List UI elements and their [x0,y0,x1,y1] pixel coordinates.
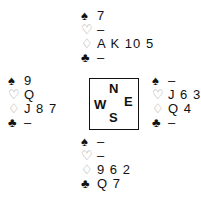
east-diamonds-cards: Q 4 [168,102,192,116]
diamond-icon: ♢ [8,102,24,116]
south-diamonds-cards: 9 6 2 [97,163,131,177]
east-spades-cards: – [168,74,176,88]
heart-icon: ♡ [81,149,97,163]
west-clubs-cards: – [24,116,32,130]
north-spades-cards: 7 [97,9,105,23]
south-hearts-row: ♡ – [81,149,131,163]
north-hearts-cards: – [97,23,105,37]
west-hand: ♠ 9 ♡ Q ♢ J 8 7 ♣ – [8,74,57,130]
club-icon: ♣ [81,177,97,191]
west-clubs-row: ♣ – [8,116,57,130]
north-clubs-cards: – [97,51,105,65]
north-hand: ♠ 7 ♡ – ♢ A K 10 5 ♣ – [81,9,154,65]
club-icon: ♣ [8,116,24,130]
compass-north-label: N [109,82,118,95]
heart-icon: ♡ [152,88,168,102]
north-clubs-row: ♣ – [81,51,154,65]
club-icon: ♣ [81,51,97,65]
south-hearts-cards: – [97,149,105,163]
west-hearts-row: ♡ Q [8,88,57,102]
diamond-icon: ♢ [81,163,97,177]
heart-icon: ♡ [81,23,97,37]
south-spades-row: ♠ – [81,135,131,149]
compass-box: N W E S [89,78,139,130]
south-diamonds-row: ♢ 9 6 2 [81,163,131,177]
spade-icon: ♠ [152,74,168,88]
west-spades-row: ♠ 9 [8,74,57,88]
south-clubs-cards: Q 7 [97,177,121,191]
east-hearts-cards: J 6 3 [168,88,201,102]
west-diamonds-cards: J 8 7 [24,102,57,116]
east-clubs-row: ♣ – [152,116,201,130]
north-hearts-row: ♡ – [81,23,154,37]
west-spades-cards: 9 [24,74,32,88]
east-spades-row: ♠ – [152,74,201,88]
compass-west-label: W [94,98,106,111]
south-hand: ♠ – ♡ – ♢ 9 6 2 ♣ Q 7 [81,135,131,191]
east-diamonds-row: ♢ Q 4 [152,102,201,116]
south-clubs-row: ♣ Q 7 [81,177,131,191]
west-diamonds-row: ♢ J 8 7 [8,102,57,116]
heart-icon: ♡ [8,88,24,102]
south-spades-cards: – [97,135,105,149]
compass-south-label: S [109,111,118,124]
spade-icon: ♠ [8,74,24,88]
diamond-icon: ♢ [152,102,168,116]
north-diamonds-row: ♢ A K 10 5 [81,37,154,51]
west-hearts-cards: Q [24,88,35,102]
compass-east-label: E [124,95,133,108]
north-spades-row: ♠ 7 [81,9,154,23]
diamond-icon: ♢ [81,37,97,51]
east-hearts-row: ♡ J 6 3 [152,88,201,102]
east-clubs-cards: – [168,116,176,130]
spade-icon: ♠ [81,9,97,23]
spade-icon: ♠ [81,135,97,149]
east-hand: ♠ – ♡ J 6 3 ♢ Q 4 ♣ – [152,74,201,130]
club-icon: ♣ [152,116,168,130]
north-diamonds-cards: A K 10 5 [97,37,154,51]
